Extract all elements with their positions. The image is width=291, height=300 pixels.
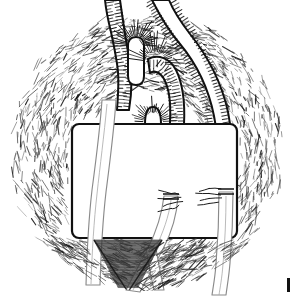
surgical-illustration <box>0 0 291 300</box>
edge-mark <box>287 278 290 292</box>
figure-root <box>0 0 291 300</box>
